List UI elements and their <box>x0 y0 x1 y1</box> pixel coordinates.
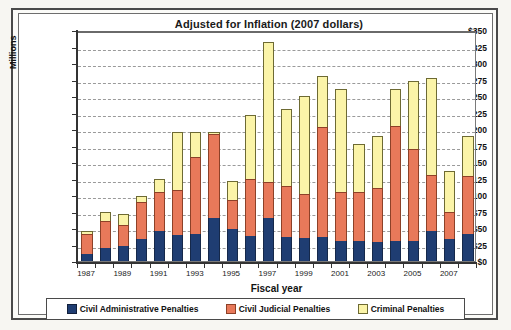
bar-segment <box>172 132 183 190</box>
bar-segment <box>372 188 383 241</box>
bar-segment <box>118 225 129 246</box>
bar-segment <box>118 246 129 261</box>
chart-legend: Civil Administrative PenaltiesCivil Judi… <box>46 298 465 320</box>
chart-title: Adjusted for Inflation (2007 dollars) <box>84 18 454 30</box>
plot-area <box>78 33 475 261</box>
bar-column <box>444 171 455 261</box>
bar-segment <box>444 212 455 239</box>
bar-segment <box>227 229 238 261</box>
legend-item[interactable]: Civil Administrative Penalties <box>67 304 199 314</box>
x-axis-tick-mark <box>277 263 278 268</box>
bar-segment <box>118 214 129 226</box>
x-axis-tick-label: 1997 <box>247 269 287 278</box>
x-axis-tick-mark <box>422 263 423 268</box>
bar-segment <box>353 144 364 193</box>
bar-column <box>154 179 165 261</box>
bar-column <box>81 231 92 261</box>
legend-item[interactable]: Criminal Penalties <box>358 304 445 314</box>
bar-column <box>426 78 437 261</box>
bar-segment <box>154 231 165 261</box>
legend-item[interactable]: Civil Judicial Penalties <box>226 304 331 314</box>
bar-segment <box>372 242 383 261</box>
bar-segment <box>299 238 310 261</box>
x-axis-tick-label: 2005 <box>393 269 433 278</box>
bar-column <box>172 132 183 261</box>
legend-swatch-icon <box>358 304 368 314</box>
bar-segment <box>317 127 328 237</box>
bar-segment <box>426 231 437 261</box>
bar-column <box>227 181 238 262</box>
bar-column <box>263 42 274 261</box>
bar-segment <box>408 81 419 150</box>
bar-segment <box>462 136 473 176</box>
x-axis-tick-mark <box>113 263 114 268</box>
x-axis-tick-label: 1999 <box>284 269 324 278</box>
bar-segment <box>335 241 346 261</box>
x-axis-tick-mark <box>186 263 187 268</box>
legend-item-label: Criminal Penalties <box>371 304 445 314</box>
legend-item-label: Civil Judicial Penalties <box>239 304 331 314</box>
bar-segment <box>208 218 219 261</box>
x-axis-tick-label: 2007 <box>429 269 469 278</box>
bar-segment <box>100 221 111 247</box>
bar-segment <box>172 235 183 261</box>
legend-swatch-icon <box>67 304 77 314</box>
x-axis-tick-label: 1991 <box>139 269 179 278</box>
bar-segment <box>81 234 92 254</box>
x-axis-tick-label: 1989 <box>102 269 142 278</box>
x-axis-tick-mark <box>476 263 477 268</box>
x-axis-tick-mark <box>204 263 205 268</box>
bar-segment <box>390 89 401 125</box>
bar-segment <box>390 241 401 261</box>
x-axis-tick-mark <box>77 263 78 268</box>
bar-segment <box>154 179 165 193</box>
bar-segment <box>263 182 274 218</box>
y-axis-line <box>76 30 78 263</box>
bar-segment <box>245 236 256 261</box>
bar-segment <box>100 212 111 221</box>
bar-segment <box>299 96 310 194</box>
gridline <box>78 66 475 67</box>
bar-segment <box>444 239 455 261</box>
bar-segment <box>245 115 256 179</box>
bar-column <box>408 81 419 261</box>
x-axis-tick-mark <box>331 263 332 268</box>
bar-segment <box>390 126 401 241</box>
bar-segment <box>154 192 165 230</box>
bar-column <box>190 132 201 261</box>
screenshot-page: Adjusted for Inflation (2007 dollars) Mi… <box>0 0 511 330</box>
bar-column <box>462 136 473 261</box>
bar-segment <box>462 176 473 234</box>
bar-segment <box>335 89 346 192</box>
bar-segment <box>263 218 274 261</box>
x-axis-tick-mark <box>131 263 132 268</box>
bar-segment <box>426 78 437 175</box>
bar-segment <box>444 171 455 211</box>
bar-segment <box>408 149 419 240</box>
legend-item-label: Civil Administrative Penalties <box>80 304 199 314</box>
bar-segment <box>136 202 147 240</box>
x-axis-tick-mark <box>258 263 259 268</box>
x-axis-tick-label: 2001 <box>320 269 360 278</box>
bar-column <box>372 136 383 261</box>
x-axis-tick-mark <box>95 263 96 268</box>
bar-segment <box>190 132 201 158</box>
bar-segment <box>281 109 292 186</box>
bar-column <box>335 89 346 261</box>
x-axis-tick-label: 2003 <box>356 269 396 278</box>
bar-segment <box>353 241 364 261</box>
legend-swatch-icon <box>226 304 236 314</box>
bar-column <box>208 132 219 261</box>
x-axis-tick-mark <box>168 263 169 268</box>
bar-column <box>118 214 129 262</box>
bar-segment <box>208 134 219 218</box>
x-axis-tick-mark <box>349 263 350 268</box>
bar-segment <box>317 237 328 261</box>
bar-segment <box>136 239 147 261</box>
bar-column <box>281 109 292 261</box>
bar-segment <box>100 248 111 261</box>
bar-segment <box>227 181 238 201</box>
bar-segment <box>335 192 346 241</box>
x-axis-tick-label: 1995 <box>211 269 251 278</box>
bar-column <box>136 196 147 261</box>
